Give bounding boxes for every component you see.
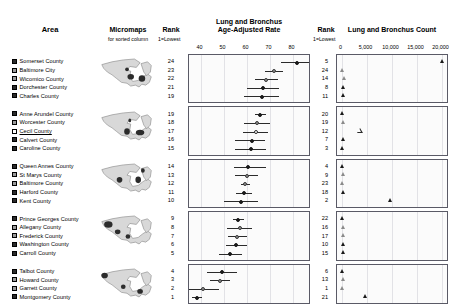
list-item[interactable]: Queen Annes County	[12, 162, 98, 171]
data-point-dot[interactable]	[258, 113, 262, 117]
data-point-dot[interactable]	[264, 78, 268, 82]
data-point-dot[interactable]	[260, 95, 264, 99]
area-label[interactable]: Harford County	[20, 189, 59, 195]
list-item[interactable]: Allegany County	[12, 223, 98, 232]
area-label[interactable]: Worcester County	[20, 119, 65, 125]
list-item[interactable]: Carroll County	[12, 249, 98, 258]
data-point-triangle[interactable]	[342, 76, 346, 80]
micromap-cell[interactable]	[99, 109, 157, 143]
data-point-triangle[interactable]	[363, 294, 367, 298]
area-label[interactable]: Baltimore City	[20, 67, 56, 73]
area-label[interactable]: Prince Georges County	[20, 216, 79, 222]
data-point-triangle[interactable]	[341, 250, 345, 254]
data-point-triangle[interactable]	[341, 93, 345, 97]
list-item[interactable]: Kent County	[12, 196, 98, 205]
area-label[interactable]: Garrett County	[20, 285, 57, 291]
list-item[interactable]: Caroline County	[12, 144, 98, 153]
micromap-cell[interactable]	[99, 213, 157, 247]
data-point-dot[interactable]	[245, 174, 249, 178]
list-item[interactable]: Cecil County	[12, 127, 98, 136]
list-item[interactable]: Wicomico County	[12, 74, 98, 83]
data-point-dot[interactable]	[295, 61, 299, 65]
list-item[interactable]: St Marys County	[12, 171, 98, 180]
area-label[interactable]: Queen Annes County	[20, 163, 74, 169]
gridline	[247, 265, 248, 304]
list-item[interactable]: Washington County	[12, 240, 98, 249]
list-item[interactable]: Garrett County	[12, 284, 98, 293]
data-point-dot[interactable]	[238, 226, 242, 230]
area-label[interactable]: Carroll County	[20, 250, 56, 256]
list-item[interactable]: Prince Georges County	[12, 214, 98, 223]
data-point-triangle[interactable]	[340, 146, 344, 150]
list-item[interactable]: Baltimore City	[12, 66, 98, 75]
data-point-triangle[interactable]	[340, 216, 344, 220]
list-item[interactable]: Worcester County	[12, 118, 98, 127]
area-label[interactable]: Somerset County	[20, 58, 64, 64]
data-point-triangle[interactable]	[340, 269, 344, 273]
data-point-dot[interactable]	[246, 165, 250, 169]
area-label[interactable]: Montgomery County	[20, 294, 71, 300]
micromap-cell[interactable]	[99, 161, 157, 195]
data-point-triangle[interactable]	[341, 242, 345, 246]
data-point-dot[interactable]	[195, 296, 199, 300]
data-point-dot[interactable]	[234, 243, 238, 247]
data-point-dot[interactable]	[261, 86, 265, 90]
area-label[interactable]: Cecil County	[20, 128, 52, 134]
list-item[interactable]: Dorchester County	[12, 83, 98, 92]
area-label[interactable]: Talbot County	[20, 268, 55, 274]
list-item[interactable]: Montgomery County	[12, 293, 98, 302]
data-point-dot[interactable]	[255, 121, 259, 125]
data-point-triangle[interactable]	[357, 128, 361, 132]
data-point-dot[interactable]	[239, 200, 243, 204]
data-point-triangle[interactable]	[340, 111, 344, 115]
area-label[interactable]: Howard County	[20, 277, 59, 283]
list-item[interactable]: Somerset County	[12, 57, 98, 66]
data-point-dot[interactable]	[218, 279, 222, 283]
area-label[interactable]: Anne Arundel County	[20, 111, 74, 117]
data-point-triangle[interactable]	[340, 164, 344, 168]
data-point-dot[interactable]	[254, 130, 258, 134]
data-point-triangle[interactable]	[340, 286, 344, 290]
data-point-dot[interactable]	[201, 287, 205, 291]
area-label[interactable]: Calvert County	[20, 137, 58, 143]
data-point-dot[interactable]	[228, 252, 232, 256]
list-item[interactable]: Talbot County	[12, 267, 98, 276]
list-item[interactable]: Harford County	[12, 188, 98, 197]
area-label[interactable]: St Marys County	[20, 172, 62, 178]
list-item[interactable]: Calvert County	[12, 135, 98, 144]
data-point-triangle[interactable]	[341, 190, 345, 194]
area-label[interactable]: Dorchester County	[20, 84, 68, 90]
data-point-triangle[interactable]	[341, 85, 345, 89]
area-label[interactable]: Wicomico County	[20, 76, 64, 82]
data-point-dot[interactable]	[250, 139, 254, 143]
data-point-triangle[interactable]	[341, 172, 345, 176]
list-item[interactable]: Frederick County	[12, 232, 98, 241]
data-point-dot[interactable]	[272, 69, 276, 73]
data-point-dot[interactable]	[249, 147, 253, 151]
data-point-triangle[interactable]	[341, 120, 345, 124]
data-point-triangle[interactable]	[340, 181, 344, 185]
data-point-triangle[interactable]	[341, 225, 345, 229]
area-label[interactable]: Baltimore County	[20, 180, 64, 186]
area-label[interactable]: Frederick County	[20, 233, 63, 239]
list-item[interactable]: Anne Arundel County	[12, 110, 98, 119]
data-point-triangle[interactable]	[440, 59, 444, 63]
micromap-cell[interactable]	[99, 56, 157, 90]
list-item[interactable]: Charles County	[12, 92, 98, 101]
area-label[interactable]: Charles County	[20, 93, 59, 99]
data-point-triangle[interactable]	[340, 68, 344, 72]
area-label[interactable]: Washington County	[20, 241, 69, 247]
data-point-triangle[interactable]	[388, 198, 392, 202]
area-label[interactable]: Allegany County	[20, 224, 62, 230]
area-label[interactable]: Kent County	[20, 198, 51, 204]
data-point-triangle[interactable]	[341, 137, 345, 141]
area-label[interactable]: Caroline County	[20, 145, 61, 151]
data-point-triangle[interactable]	[341, 233, 345, 237]
list-item[interactable]: Howard County	[12, 275, 98, 284]
micromap-thumbnail	[99, 213, 155, 247]
data-point-triangle[interactable]	[341, 277, 345, 281]
micromap-cell[interactable]	[99, 266, 157, 300]
rank-value: 11	[312, 92, 328, 101]
data-point-dot[interactable]	[235, 235, 239, 239]
list-item[interactable]: Baltimore County	[12, 179, 98, 188]
